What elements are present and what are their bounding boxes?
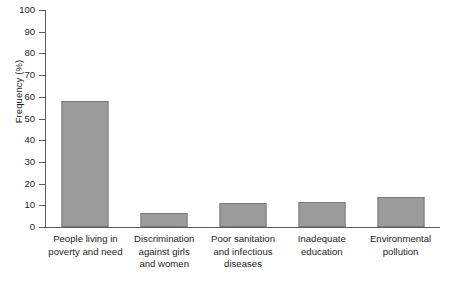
y-axis-tick-label: 70 [5,70,35,80]
y-axis-tick-label: 80 [5,48,35,58]
y-axis-tick [39,32,45,33]
x-axis-line [45,227,440,228]
y-axis-tick-label: 20 [5,179,35,189]
plot-area [46,10,440,227]
y-axis-tick [39,227,45,228]
y-axis-tick-label: 30 [5,157,35,167]
bar[interactable] [62,101,109,227]
y-axis-tick-label: 60 [5,92,35,102]
x-axis-category-label-line: pollution [355,246,447,259]
y-axis-tick [39,75,45,76]
x-axis-category-label-line: Environmental [355,233,447,246]
x-axis-labels: People living inpoverty and needDiscrimi… [46,233,440,279]
y-axis-tick-label: 90 [5,27,35,37]
bar-slot [46,10,125,227]
y-axis-tick [39,97,45,98]
bar[interactable] [377,197,424,227]
x-axis-category-label-line: diseases [197,258,289,271]
y-axis-tick-label: 100 [5,5,35,15]
bar-chart-figure: Frequency (%) 1009080706050403020100 Peo… [0,0,449,281]
bar[interactable] [219,203,266,227]
bar-slot [282,10,361,227]
y-axis-tick [39,184,45,185]
y-axis-tick-label: 50 [5,114,35,124]
y-axis-tick-label: 10 [5,200,35,210]
bar[interactable] [298,202,345,227]
y-axis-tick [39,119,45,120]
y-axis-tick [39,53,45,54]
y-axis-tick [39,205,45,206]
bar-slot [361,10,440,227]
y-axis-tick-label: 40 [5,135,35,145]
y-axis-tick [39,140,45,141]
bar-slot [125,10,204,227]
bar-slot [204,10,283,227]
y-axis-tick [39,10,45,11]
y-axis-tick-label: 0 [5,222,35,232]
bar[interactable] [141,213,188,227]
x-axis-category-label: Environmentalpollution [355,233,447,258]
y-axis-tick [39,162,45,163]
